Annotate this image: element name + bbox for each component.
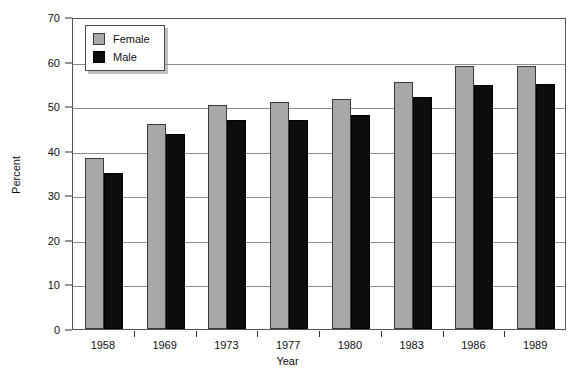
- y-tick-mark-50: [65, 107, 72, 108]
- y-tick-mark-60: [65, 62, 72, 63]
- y-tick-label-10: 10: [48, 280, 60, 291]
- bar-male-1958: [104, 173, 123, 329]
- bar-male-1969: [166, 134, 185, 329]
- x-tick-mark-1969: [134, 331, 135, 337]
- x-tick-label-1969: 1969: [152, 340, 176, 351]
- x-tick-mark-1983: [381, 331, 382, 337]
- y-tick-mark-40: [65, 151, 72, 152]
- bar-chart: 010203040506070 Percent FemaleMale 19581…: [0, 0, 575, 379]
- legend: FemaleMale: [85, 25, 165, 71]
- bar-male-1973: [227, 120, 246, 329]
- x-axis-title: Year: [0, 355, 575, 367]
- x-tick-label-1973: 1973: [214, 340, 238, 351]
- bar-male-1983: [413, 97, 432, 329]
- legend-label-female: Female: [113, 34, 150, 45]
- x-tick-mark-1980: [319, 331, 320, 337]
- bar-male-1980: [351, 115, 370, 329]
- x-tick-label-1989: 1989: [523, 340, 547, 351]
- y-tick-label-20: 20: [48, 235, 60, 246]
- y-tick-label-50: 50: [48, 102, 60, 113]
- bar-male-1977: [289, 120, 308, 329]
- x-tick-label-1986: 1986: [461, 340, 485, 351]
- x-tick-mark-1986: [443, 331, 444, 337]
- y-tick-label-0: 0: [54, 325, 60, 336]
- y-tick-label-30: 30: [48, 191, 60, 202]
- y-tick-mark-20: [65, 240, 72, 241]
- y-axis-title: Percent: [10, 156, 22, 194]
- legend-item-female: Female: [93, 31, 150, 47]
- x-tick-label-1980: 1980: [338, 340, 362, 351]
- x-tick-label-1977: 1977: [276, 340, 300, 351]
- legend-label-male: Male: [113, 52, 137, 63]
- legend-item-male: Male: [93, 49, 150, 65]
- x-tick-label-1958: 1958: [91, 340, 115, 351]
- female-swatch-icon: [93, 33, 105, 45]
- bar-female-1969: [147, 124, 166, 329]
- y-tick-mark-10: [65, 285, 72, 286]
- y-tick-mark-70: [65, 18, 72, 19]
- bar-female-1989: [517, 66, 536, 329]
- bar-female-1973: [208, 105, 227, 329]
- male-swatch-icon: [93, 51, 105, 63]
- bar-female-1958: [85, 158, 104, 329]
- plot-area: FemaleMale: [72, 18, 566, 330]
- y-tick-label-70: 70: [48, 13, 60, 24]
- x-tick-mark-1989: [504, 331, 505, 337]
- bar-female-1986: [455, 66, 474, 329]
- x-tick-mark-1977: [257, 331, 258, 337]
- x-tick-label-1983: 1983: [399, 340, 423, 351]
- bar-female-1983: [394, 82, 413, 329]
- bar-female-1977: [270, 102, 289, 329]
- y-tick-mark-30: [65, 196, 72, 197]
- bar-female-1980: [332, 99, 351, 329]
- x-tick-mark-1973: [196, 331, 197, 337]
- y-tick-mark-0: [65, 330, 72, 331]
- y-tick-label-60: 60: [48, 57, 60, 68]
- bar-male-1986: [474, 85, 493, 329]
- bar-male-1989: [536, 84, 555, 329]
- y-tick-label-40: 40: [48, 146, 60, 157]
